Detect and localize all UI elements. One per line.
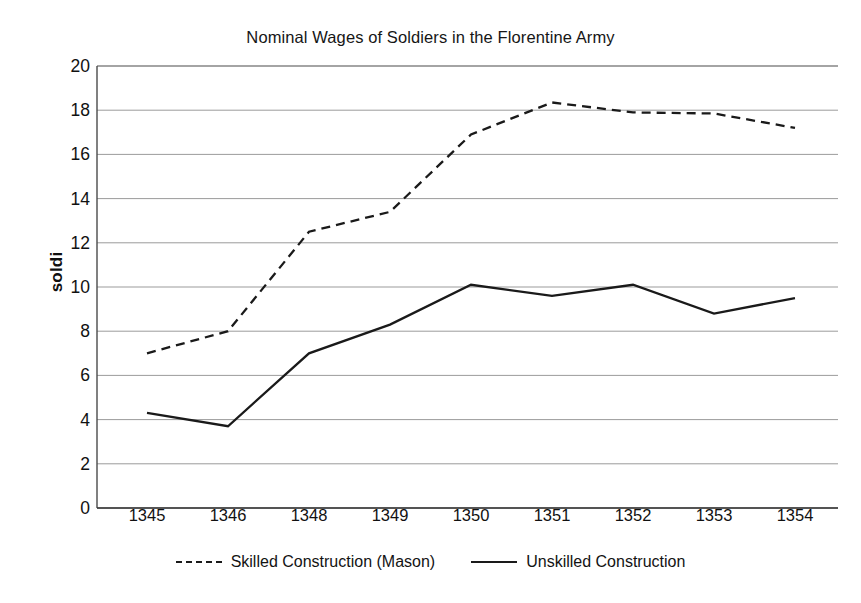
chart-title: Nominal Wages of Soldiers in the Florent… bbox=[0, 28, 861, 47]
x-tick-label: 1345 bbox=[129, 506, 166, 525]
solid-line-icon bbox=[471, 561, 517, 563]
x-tick-label: 1353 bbox=[696, 506, 733, 525]
legend-label: Unskilled Construction bbox=[526, 553, 685, 571]
x-tick-label: 1348 bbox=[291, 506, 328, 525]
y-tick-label: 20 bbox=[44, 56, 90, 77]
y-tick-label: 18 bbox=[44, 100, 90, 121]
dashed-line-icon bbox=[176, 561, 222, 563]
y-tick-label: 6 bbox=[44, 365, 90, 386]
y-tick-label: 8 bbox=[44, 321, 90, 342]
chart-figure: Nominal Wages of Soldiers in the Florent… bbox=[0, 0, 861, 603]
y-axis-tick-labels: 02468101214161820 bbox=[42, 0, 90, 603]
x-tick-label: 1354 bbox=[777, 506, 814, 525]
y-tick-label: 16 bbox=[44, 144, 90, 165]
x-tick-label: 1352 bbox=[615, 506, 652, 525]
x-tick-label: 1351 bbox=[534, 506, 571, 525]
gridlines bbox=[97, 66, 838, 508]
y-tick-label: 14 bbox=[44, 188, 90, 209]
series-lines bbox=[147, 102, 795, 426]
y-tick-label: 0 bbox=[44, 498, 90, 519]
x-tick-label: 1349 bbox=[372, 506, 409, 525]
x-tick-label: 1350 bbox=[453, 506, 490, 525]
legend-label: Skilled Construction (Mason) bbox=[231, 553, 436, 571]
y-tick-label: 10 bbox=[44, 277, 90, 298]
legend-item[interactable]: Skilled Construction (Mason) bbox=[176, 553, 436, 571]
x-tick-label: 1346 bbox=[210, 506, 247, 525]
y-tick-label: 12 bbox=[44, 232, 90, 253]
y-tick-label: 2 bbox=[44, 453, 90, 474]
y-tick-label: 4 bbox=[44, 409, 90, 430]
legend-item[interactable]: Unskilled Construction bbox=[471, 553, 685, 571]
axis-frame bbox=[97, 66, 838, 508]
chart-legend: Skilled Construction (Mason)Unskilled Co… bbox=[0, 553, 861, 571]
series-line bbox=[147, 102, 795, 353]
series-line bbox=[147, 285, 795, 426]
